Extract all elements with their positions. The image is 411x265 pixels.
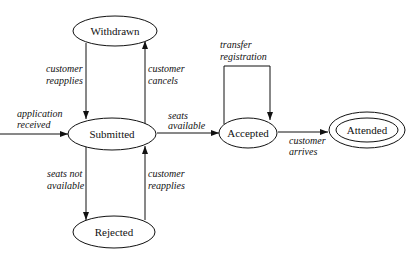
state-attended-final: Attended bbox=[329, 112, 405, 148]
state-submitted: Submitted bbox=[68, 118, 156, 150]
edge-label: registration bbox=[220, 51, 267, 62]
state-rejected: Rejected bbox=[73, 216, 155, 248]
state-label: Withdrawn bbox=[90, 25, 140, 37]
state-accepted: Accepted bbox=[219, 118, 277, 148]
edge-label: customer bbox=[148, 63, 185, 74]
state-diagram: Withdrawn Submitted Rejected Accepted At… bbox=[0, 0, 411, 265]
edge-label: customer bbox=[148, 168, 185, 179]
state-label: Accepted bbox=[227, 127, 269, 139]
edge-label: application bbox=[17, 108, 63, 119]
state-label: Attended bbox=[347, 124, 388, 136]
edge-label: seats not bbox=[47, 168, 83, 179]
edge-label: customer bbox=[289, 135, 326, 146]
edge-label: customer bbox=[46, 63, 83, 74]
state-label: Submitted bbox=[89, 128, 135, 140]
edge-accepted-self-loop bbox=[224, 66, 270, 124]
edge-labels: application received customer reapplies … bbox=[17, 39, 326, 191]
state-label: Rejected bbox=[95, 226, 134, 238]
state-withdrawn: Withdrawn bbox=[73, 16, 157, 46]
edge-label: reapplies bbox=[46, 75, 83, 86]
edge-label: available bbox=[47, 180, 85, 191]
edge-label: received bbox=[17, 119, 51, 130]
edge-label: reapplies bbox=[148, 180, 185, 191]
edge-label: arrives bbox=[289, 146, 317, 157]
edge-label: transfer bbox=[220, 39, 252, 50]
edge-label: cancels bbox=[148, 75, 178, 86]
edge-label: available bbox=[168, 120, 206, 131]
